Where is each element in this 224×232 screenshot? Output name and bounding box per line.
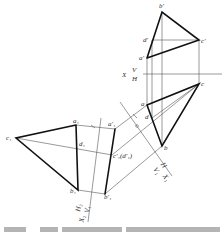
label-c-prime: c' [201,37,206,45]
figure-caption-cut-off [0,226,224,232]
axis-x1-labels: H V₁ X₁ [151,160,176,185]
label-a1: a₁ [73,117,79,125]
axis-x2-x-label: X₂ [77,214,86,223]
triangle-h-projection [147,84,199,146]
edge-view-h2-projection [105,129,115,194]
axis-x2-labels: H₂ V₁ X₂ [73,203,92,224]
label-d-prime: d' [143,36,149,44]
projection-diagram: b' d' c' a' X V H c a d b a₁ d₁ c₁ b₁ a'… [0,0,224,232]
axis-x2-h2-label: H₂ [74,203,83,213]
label-b: b [164,144,168,152]
axis-x2 [88,118,101,222]
label-a: a [141,100,145,108]
triangle-v1-projection [16,125,78,190]
axis-v-label: V [132,66,137,74]
axis-x1-v1-label: V₁ [151,166,161,176]
label-a-prime: a' [139,54,145,62]
projection-lines [16,12,199,194]
label-b1: b₁ [70,187,76,195]
axis-x2-v1-label: V₁ [83,206,92,214]
object-outlines [16,12,199,194]
projector-a-a1prime [115,105,147,129]
line-d-c [152,84,199,118]
projector-c-c1prime [112,84,199,155]
axis-x-label: X [121,71,127,79]
triangle-v-projection [147,12,199,58]
label-b-prime: b' [159,2,165,10]
label-b1-prime: b'₁ [104,193,111,201]
axis-h-label: H [131,75,138,83]
caption-fragment [62,227,122,232]
label-a1-prime: a'₁ [108,120,115,128]
label-c: c [201,80,205,88]
label-d: d [145,113,149,121]
caption-fragment [4,227,26,232]
label-c1: c₁ [6,134,12,142]
caption-fragment [126,227,220,232]
tick-mark [133,114,137,118]
label-c1-prime-d1-prime: c'₁(d'₁) [113,152,133,160]
axis-x1-x-label: X₁ [160,172,171,183]
label-d1: d₁ [79,140,85,148]
caption-fragment [40,227,58,232]
